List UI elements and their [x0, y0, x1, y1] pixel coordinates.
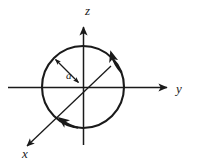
- axes-circle-diagram: z y x a: [0, 0, 198, 164]
- z-axis-label: z: [84, 3, 90, 18]
- y-axis-label: y: [174, 81, 182, 96]
- figure-container: z y x a: [0, 0, 198, 164]
- radius-label: a: [66, 69, 72, 81]
- x-axis-label: x: [21, 146, 28, 161]
